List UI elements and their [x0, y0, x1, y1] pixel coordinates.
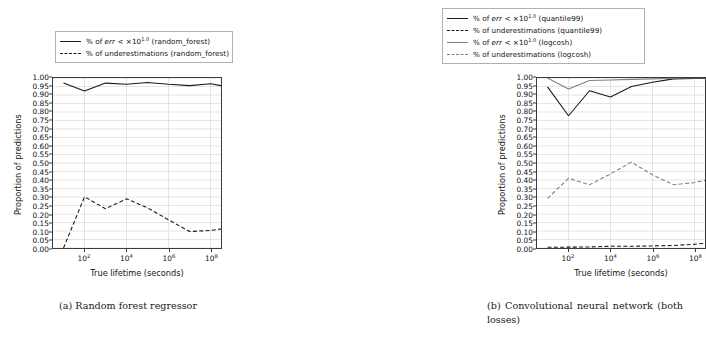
legend-item-label: % of underestimations (quantile99): [473, 26, 602, 35]
y-tick-label: 0.45: [33, 167, 49, 176]
plot-frame-b: [536, 77, 706, 249]
y-tick-mark: [533, 240, 536, 241]
y-tick-label: 0.40: [517, 176, 533, 185]
y-tick-mark: [49, 188, 52, 189]
y-tick-label: 0.75: [517, 116, 533, 125]
y-tick-label: 0.20: [33, 210, 49, 219]
x-tick-mark: [695, 249, 696, 252]
y-tick-label: 0.80: [517, 107, 533, 116]
x-tick-label: 108: [205, 253, 218, 263]
solid-line-swatch-icon: [447, 14, 468, 22]
y-tick-mark: [49, 102, 52, 103]
y-tick-label: 0.85: [33, 98, 49, 107]
y-tick-mark: [49, 206, 52, 207]
y-tick-mark: [533, 120, 536, 121]
y-tick-mark: [533, 154, 536, 155]
plot-area-b: 0.000.050.100.150.200.250.300.350.400.45…: [536, 77, 706, 249]
y-tick-label: 1.00: [33, 73, 49, 82]
x-tick-label: 106: [163, 253, 176, 263]
y-tick-label: 0.80: [33, 107, 49, 116]
subfigure-caption-a: (a) Random forest regressor: [38, 299, 218, 313]
y-tick-label: 0.90: [33, 90, 49, 99]
y-tick-label: 0.65: [33, 133, 49, 142]
y-tick-label: 0.10: [517, 227, 533, 236]
y-tick-label: 0.00: [33, 245, 49, 254]
y-tick-label: 0.05: [517, 236, 533, 245]
y-tick-mark: [533, 94, 536, 95]
y-tick-mark: [533, 180, 536, 181]
series-line: [548, 243, 705, 247]
y-tick-label: 0.35: [517, 184, 533, 193]
y-tick-mark: [49, 214, 52, 215]
y-tick-mark: [533, 206, 536, 207]
y-tick-mark: [49, 171, 52, 172]
y-tick-label: 1.00: [517, 73, 533, 82]
legend-item-label: % of err < ×101.0 (random_forest): [86, 36, 210, 46]
y-tick-mark: [49, 85, 52, 86]
x-tick-label: 108: [689, 253, 702, 263]
y-tick-label: 0.20: [517, 210, 533, 219]
x-tick-mark: [126, 249, 127, 252]
gridlines-a: [53, 78, 221, 248]
x-tick-mark: [169, 249, 170, 252]
y-tick-mark: [49, 180, 52, 181]
y-tick-mark: [533, 128, 536, 129]
y-tick-label: 0.75: [33, 116, 49, 125]
y-tick-label: 0.25: [33, 202, 49, 211]
dashed-line-swatch-icon: [60, 49, 81, 57]
legend-item-label: % of underestimations (random_forest): [86, 49, 229, 58]
panel-random-forest: % of err < ×101.0 (random_forest) % of u…: [0, 0, 242, 341]
y-tick-mark: [49, 77, 52, 78]
legend-item-label: % of err < ×101.0 (logcosh): [473, 37, 572, 47]
y-tick-mark: [49, 137, 52, 138]
data-lines-a: [64, 82, 221, 248]
y-tick-mark: [49, 120, 52, 121]
y-tick-label: 0.90: [517, 90, 533, 99]
subfigure-caption-b: (b) Convolutional neural network (both l…: [487, 299, 683, 327]
y-tick-label: 0.95: [517, 81, 533, 90]
legend-item-label: % of underestimations (logcosh): [473, 50, 591, 59]
y-tick-mark: [49, 111, 52, 112]
legend-item-underestimations-random-forest: % of underestimations (random_forest): [60, 47, 227, 59]
legend-item-underestimations-logcosh: % of underestimations (logcosh): [447, 48, 639, 60]
x-tick-mark: [653, 249, 654, 252]
y-tick-mark: [533, 223, 536, 224]
y-tick-label: 0.65: [517, 133, 533, 142]
plot-canvas-b: [537, 78, 705, 248]
y-tick-mark: [533, 137, 536, 138]
y-tick-label: 0.40: [33, 176, 49, 185]
y-tick-label: 0.15: [33, 219, 49, 228]
y-tick-mark: [49, 197, 52, 198]
y-tick-label: 0.00: [517, 245, 533, 254]
y-tick-label: 0.50: [517, 159, 533, 168]
y-tick-label: 0.55: [517, 150, 533, 159]
solid-line-swatch-icon: [60, 37, 81, 45]
y-tick-mark: [49, 231, 52, 232]
y-tick-label: 0.85: [517, 98, 533, 107]
x-tick-label: 102: [78, 253, 91, 263]
panel-cnn: % of err < ×101.0 (quantile99) % of unde…: [242, 0, 484, 341]
y-tick-mark: [533, 163, 536, 164]
legend-item-err-logcosh: % of err < ×101.0 (logcosh): [447, 36, 639, 48]
y-axis-label: Proportion of predictions: [13, 114, 23, 215]
plot-canvas-a: [53, 78, 221, 248]
solid-line-swatch-icon: [447, 38, 468, 46]
y-tick-mark: [533, 231, 536, 232]
y-tick-mark: [49, 154, 52, 155]
y-tick-label: 0.60: [517, 141, 533, 150]
y-tick-mark: [533, 197, 536, 198]
y-tick-mark: [533, 249, 536, 250]
y-tick-label: 0.55: [33, 150, 49, 159]
y-tick-label: 0.30: [33, 193, 49, 202]
y-tick-mark: [533, 171, 536, 172]
x-axis-label: True lifetime (seconds): [52, 268, 222, 278]
y-tick-mark: [49, 163, 52, 164]
series-line: [548, 162, 705, 198]
y-tick-label: 0.35: [33, 184, 49, 193]
plot-area-a: 0.000.050.100.150.200.250.300.350.400.45…: [52, 77, 222, 249]
x-tick-mark: [610, 249, 611, 252]
gridlines-b: [537, 78, 705, 248]
y-tick-label: 0.60: [33, 141, 49, 150]
y-tick-mark: [533, 145, 536, 146]
